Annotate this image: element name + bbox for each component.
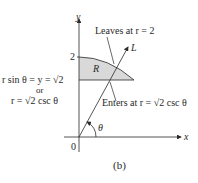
annotation-line-eq-2: r = √2 csc θ bbox=[11, 96, 58, 106]
region-label: R bbox=[93, 64, 99, 74]
annotation-line-eq-or: or bbox=[36, 86, 44, 95]
origin-label: 0 bbox=[71, 142, 76, 152]
region-r bbox=[79, 57, 134, 80]
figure-caption: (b) bbox=[113, 160, 126, 171]
x-axis-label: x bbox=[184, 132, 188, 142]
annotation-line-eq-1: r sin θ = y = √2 bbox=[2, 75, 64, 85]
angle-label: θ bbox=[98, 123, 103, 133]
y-tick-2-label: 2 bbox=[70, 52, 75, 62]
leader-leaves bbox=[107, 37, 114, 64]
annotation-leaves: Leaves at r = 2 bbox=[95, 26, 155, 36]
ray-label: L bbox=[131, 43, 137, 53]
annotation-enters: Enters at r = √2 csc θ bbox=[102, 98, 187, 108]
y-axis-label: y bbox=[76, 12, 80, 22]
theta-arc-icon bbox=[87, 122, 96, 137]
